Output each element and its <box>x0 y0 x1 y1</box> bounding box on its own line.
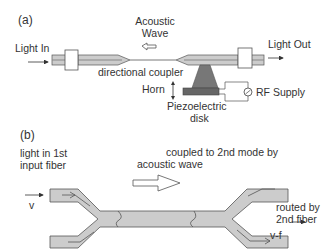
routed-label-line1: routed by <box>276 201 321 213</box>
coupled-label-line1: coupled to 2nd mode by <box>166 146 279 158</box>
right-connector <box>238 48 252 68</box>
piezo-label-line2: disk <box>190 112 209 124</box>
right-fiber <box>176 48 264 68</box>
piezo-label-line1: Piezoelectric <box>167 100 227 112</box>
vibration-arrow-icon <box>171 81 175 100</box>
acoustic-wave-label-line2: Wave <box>142 27 169 39</box>
panel-a-label: (a) <box>18 13 33 27</box>
panel-b-label: (b) <box>20 128 35 142</box>
directional-coupler-label: directional coupler <box>98 66 184 78</box>
acoustic-wave-arrow-icon <box>142 43 156 50</box>
acoustic-direction-arrow-icon <box>133 175 180 191</box>
input-label-line2: input fiber <box>20 159 67 171</box>
rf-circuit <box>219 82 252 101</box>
input-frequency-label: v <box>29 199 35 211</box>
acoustic-wave-label-line1: Acoustic <box>135 15 175 27</box>
routed-label-line2: 2nd fiber <box>276 213 317 225</box>
waveguide-body <box>50 189 288 248</box>
horn <box>192 65 218 88</box>
light-out-label: Light Out <box>268 38 311 50</box>
light-in-label: Light In <box>15 42 50 54</box>
diagram-canvas: (a) Acoustic Wave Light In Light Out dir… <box>0 0 330 250</box>
output-frequency-label: v-f <box>270 229 282 241</box>
coupled-label-line2: acoustic wave <box>137 158 203 170</box>
piezoelectric-disk <box>183 88 219 95</box>
input-label-line1: light in 1st <box>20 147 67 159</box>
left-connector <box>65 50 78 70</box>
horn-label: Horn <box>142 83 165 95</box>
rf-supply-label: RF Supply <box>256 86 306 98</box>
